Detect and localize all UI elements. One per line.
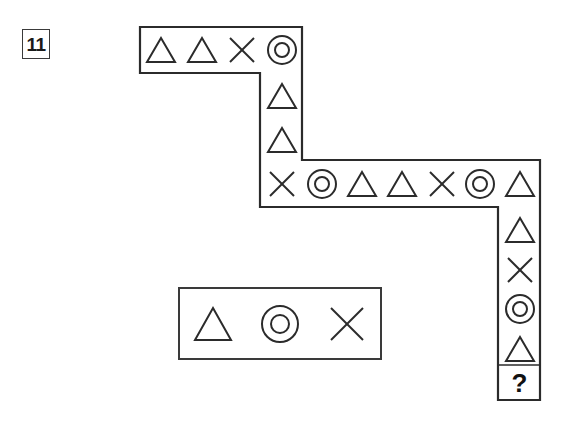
- answer-option-2[interactable]: [250, 296, 310, 351]
- sequence-cell-upper-col-1: [261, 73, 302, 119]
- concentric-circle-icon: [504, 293, 536, 325]
- sequence-cell-mid-7: [499, 161, 540, 207]
- cross-icon: [328, 305, 366, 343]
- cross-icon: [427, 169, 457, 199]
- sequence-cell-mid-2: [301, 161, 342, 207]
- triangle-icon: [266, 126, 298, 154]
- answer-option-1[interactable]: [183, 296, 243, 351]
- answer-options-box: [178, 287, 382, 360]
- triangle-icon: [186, 36, 218, 64]
- sequence-cell-top-3: [221, 27, 262, 73]
- triangle-icon: [504, 216, 536, 244]
- concentric-circle-icon: [464, 168, 496, 200]
- sequence-cell-mid-1: [261, 161, 302, 207]
- sequence-cell-top-4: [261, 27, 302, 73]
- cross-icon: [227, 35, 257, 65]
- sequence-cell-upper-col-2: [261, 117, 302, 163]
- triangle-icon: [346, 170, 378, 198]
- triangle-icon: [266, 82, 298, 110]
- cross-icon: [505, 255, 535, 285]
- puzzle-canvas: 11: [0, 0, 564, 432]
- sequence-cell-mid-6: [459, 161, 500, 207]
- concentric-circle-icon: [260, 304, 300, 344]
- sequence-cell-mid-3: [341, 161, 382, 207]
- sequence-cell-mid-5: [421, 161, 462, 207]
- question-mark-label: ?: [512, 370, 528, 396]
- sequence-cell-mid-4: [381, 161, 422, 207]
- triangle-icon: [145, 36, 177, 64]
- question-mark-cell[interactable]: ?: [499, 365, 540, 400]
- concentric-circle-icon: [266, 34, 298, 66]
- triangle-icon: [386, 170, 418, 198]
- cross-icon: [267, 169, 297, 199]
- triangle-icon: [193, 306, 233, 342]
- sequence-cell-top-1: [140, 27, 181, 73]
- puzzle-number-badge: 11: [22, 29, 50, 59]
- sequence-cell-top-2: [181, 27, 222, 73]
- concentric-circle-icon: [306, 168, 338, 200]
- triangle-icon: [504, 170, 536, 198]
- answer-option-3[interactable]: [317, 296, 377, 351]
- triangle-icon: [504, 335, 536, 363]
